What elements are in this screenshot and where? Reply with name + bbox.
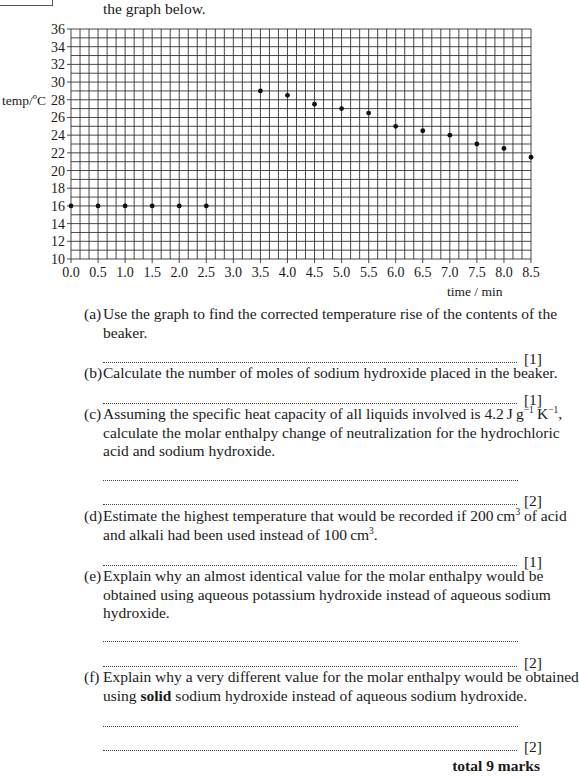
- data-point: [502, 146, 507, 151]
- data-point: [150, 204, 155, 209]
- answer-line-a[interactable]: [103, 352, 517, 363]
- x-tick-label: 6.5: [414, 265, 432, 280]
- answer-line-f-2[interactable]: [103, 740, 517, 751]
- y-tick-label: 36: [51, 22, 65, 37]
- x-tick-label: 0.5: [89, 265, 107, 280]
- question-b-label: (b): [84, 364, 102, 383]
- y-tick-label: 18: [51, 181, 65, 196]
- question-f-line-2: using solid sodium hydroxide instead of …: [103, 687, 579, 706]
- marks-f: [2]: [524, 738, 542, 756]
- x-tick-label: 1.5: [143, 265, 161, 280]
- data-points: [69, 89, 534, 209]
- y-axis-label: temp/ºC: [2, 93, 46, 108]
- y-tick-label: 34: [51, 40, 65, 55]
- x-tick-label: 3.5: [252, 265, 270, 280]
- x-tick-label: 7.0: [441, 265, 459, 280]
- x-tick-label: 5.0: [333, 265, 351, 280]
- data-point: [420, 128, 425, 133]
- y-tick-label: 22: [51, 146, 65, 161]
- question-b-line-1: Calculate the number of moles of sodium …: [103, 364, 558, 383]
- y-axis-ticks: 1012141618202224262830323436: [51, 22, 65, 267]
- data-point: [474, 142, 479, 147]
- question-e-line-3: hydroxide.: [103, 604, 551, 623]
- question-d-label: (d): [84, 507, 102, 526]
- question-a-line-1: Use the graph to find the corrected temp…: [103, 305, 557, 324]
- x-axis-label: time / min: [447, 284, 503, 299]
- answer-line-c-2[interactable]: [103, 494, 517, 505]
- data-point: [96, 204, 101, 209]
- answer-line-d[interactable]: [103, 555, 517, 566]
- question-a-line-2: beaker.: [103, 324, 557, 343]
- x-tick-label: 8.5: [522, 265, 540, 280]
- y-tick-label: 24: [51, 128, 65, 143]
- y-tick-label: 16: [51, 199, 65, 214]
- question-e-line-1: Explain why an almost identical value fo…: [103, 567, 551, 586]
- data-point: [204, 204, 209, 209]
- question-f-label: (f): [84, 668, 100, 687]
- graph-grid: [67, 29, 531, 263]
- question-c-label: (c): [84, 405, 101, 424]
- question-c-line-2: calculate the molar enthalpy change of n…: [103, 424, 562, 443]
- x-tick-label: 1.0: [116, 265, 134, 280]
- total-marks: total 9 marks: [452, 757, 540, 775]
- x-tick-label: 2.0: [170, 265, 188, 280]
- question-a-label: (a): [84, 305, 101, 324]
- data-point: [285, 93, 290, 98]
- x-tick-label: 0.0: [62, 265, 80, 280]
- data-point: [258, 89, 263, 94]
- data-point: [529, 155, 534, 160]
- y-tick-label: 26: [51, 110, 65, 125]
- question-c-line-1: Assuming the specific heat capacity of a…: [103, 405, 562, 424]
- y-tick-label: 30: [51, 75, 65, 90]
- y-tick-label: 32: [51, 57, 65, 72]
- data-point: [123, 204, 128, 209]
- y-tick-label: 14: [51, 217, 65, 232]
- y-tick-label: 28: [51, 93, 65, 108]
- answer-line-c-1[interactable]: [103, 470, 518, 481]
- answer-line-e-1[interactable]: [103, 631, 518, 642]
- answer-line-e-2[interactable]: [103, 656, 517, 667]
- answer-line-f-1[interactable]: [103, 716, 518, 727]
- temperature-time-graph: 1012141618202224262830323436 0.00.51.01.…: [0, 0, 542, 300]
- data-point: [312, 102, 317, 107]
- question-d-line-1: Estimate the highest temperature that wo…: [103, 507, 567, 526]
- question-f-line-1: Explain why a very different value for t…: [103, 668, 579, 687]
- x-tick-label: 4.0: [279, 265, 297, 280]
- data-point: [69, 204, 74, 209]
- question-e-label: (e): [84, 567, 101, 586]
- data-point: [447, 133, 452, 138]
- x-axis-ticks: 0.00.51.01.52.02.53.03.54.04.55.05.56.06…: [62, 265, 540, 280]
- question-e-line-2: obtained using aqueous potassium hydroxi…: [103, 586, 551, 605]
- question-c-line-3: acid and sodium hydroxide.: [103, 442, 562, 461]
- data-point: [393, 124, 398, 129]
- y-tick-label: 12: [51, 234, 65, 249]
- answer-line-b[interactable]: [103, 393, 517, 404]
- data-point: [177, 204, 182, 209]
- question-d-line-2: and alkali had been used instead of 100 …: [103, 526, 567, 545]
- x-tick-label: 6.0: [387, 265, 405, 280]
- y-tick-label: 20: [51, 164, 65, 179]
- x-tick-label: 3.0: [225, 265, 243, 280]
- data-point: [339, 106, 344, 111]
- data-point: [366, 111, 371, 116]
- x-tick-label: 8.0: [495, 265, 513, 280]
- x-tick-label: 4.5: [306, 265, 324, 280]
- x-tick-label: 7.5: [468, 265, 486, 280]
- x-tick-label: 5.5: [360, 265, 378, 280]
- x-tick-label: 2.5: [198, 265, 216, 280]
